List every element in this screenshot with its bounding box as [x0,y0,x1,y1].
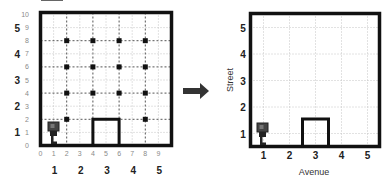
beeper-dot [143,64,148,69]
beeper-dot [143,91,148,96]
fine-x-tick: 0 [39,150,43,157]
fine-y-tick: 10 [21,11,29,18]
fine-y-tick: 8 [25,37,29,44]
beeper-dot [64,91,69,96]
left-grid-lines [41,13,172,146]
left-world-diagram: 01234567890123456789101234512345 [0,0,185,188]
avenue-label: 2 [287,150,293,161]
fine-y-tick: 9 [25,24,29,31]
fine-y-tick: 1 [25,129,29,136]
fine-x-tick: 9 [156,150,160,157]
coarse-x-label: 4 [130,165,136,176]
robot-foot [260,143,266,146]
fine-y-tick: 4 [25,90,29,97]
beeper-dot [64,38,69,43]
robot-foot [51,142,57,145]
fine-x-tick: 7 [130,150,134,157]
right-world-diagram: 1234512345 Avenue Street [210,0,392,188]
robot-body [259,132,266,137]
coarse-y-label: 3 [14,75,20,86]
coarse-x-label: 2 [78,165,84,176]
robot-icon [48,122,59,144]
beeper-dot [117,38,122,43]
fine-y-tick: 5 [25,77,29,84]
coarse-y-label: 2 [14,101,20,112]
beeper-dot [64,117,69,122]
x-axis-title: Avenue [299,167,329,177]
fine-x-tick: 3 [78,150,82,157]
fine-y-tick: 3 [25,103,29,110]
coarse-y-label: 4 [14,49,20,60]
street-label: 3 [240,76,246,87]
fine-x-tick: 2 [65,150,69,157]
beeper-dot [90,38,95,43]
coarse-x-label: 5 [157,165,163,176]
coarse-x-label: 3 [104,165,110,176]
fine-y-tick: 0 [25,142,29,149]
beeper-dot [143,38,148,43]
avenue-label: 4 [339,150,345,161]
robot-eye [51,124,55,128]
beeper-dot [64,64,69,69]
fine-x-tick: 8 [143,150,147,157]
fine-x-tick: 1 [52,150,56,157]
fine-y-tick: 7 [25,50,29,57]
beeper-dot [117,64,122,69]
right-grid-lines [251,14,380,147]
beeper-dot [90,64,95,69]
fine-y-tick: 2 [25,116,29,123]
robot-body [50,131,57,136]
coarse-y-label: 1 [14,127,20,138]
right-arrow-icon [180,82,212,100]
coarse-y-label: 5 [14,23,20,34]
street-label: 4 [240,49,246,60]
fine-x-tick: 4 [91,150,95,157]
right-axis-labels: 1234512345 [240,23,371,162]
fine-y-tick: 6 [25,63,29,70]
avenue-label: 1 [261,150,267,161]
beeper-dot [90,91,95,96]
y-axis-title: Street [225,67,235,92]
fine-x-tick: 6 [117,150,121,157]
coarse-x-label: 1 [52,165,58,176]
street-label: 1 [240,129,246,140]
beeper-dot [143,117,148,122]
fine-x-tick: 5 [104,150,108,157]
street-label: 2 [240,102,246,113]
robot-eye [260,125,264,129]
beeper-dot [117,91,122,96]
avenue-label: 3 [313,150,319,161]
avenue-label: 5 [365,150,371,161]
street-label: 5 [240,23,246,34]
right-wall [303,119,329,147]
